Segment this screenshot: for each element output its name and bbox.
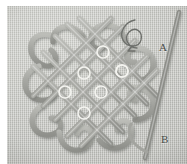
vignette [7,6,187,164]
label-b: B [161,134,169,145]
image-frame: A B [0,0,187,164]
label-a: A [159,42,167,53]
photograph: A B [7,6,187,164]
